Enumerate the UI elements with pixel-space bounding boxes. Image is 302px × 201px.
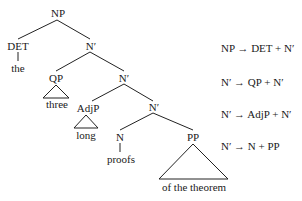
rule-1: NP → DET + N′ — [221, 42, 294, 54]
node-qp: QP — [49, 72, 63, 84]
node-nbar-3: N′ — [149, 101, 159, 113]
node-det: DET — [7, 40, 28, 52]
rule-3: N′ → AdjP + N′ — [221, 108, 292, 120]
rule-2: N′ → QP + N′ — [221, 76, 284, 88]
leaf-long: long — [76, 129, 96, 141]
leaf-three: three — [46, 98, 68, 110]
rule-4: N′ → N + PP — [221, 140, 280, 152]
node-adjp: AdjP — [77, 102, 100, 114]
leaf-the: the — [11, 62, 24, 74]
leaf-proofs: proofs — [107, 153, 135, 165]
node-np: NP — [51, 7, 65, 19]
node-nbar-1: N′ — [86, 40, 96, 52]
leaf-of-the-theorem: of the theorem — [162, 181, 226, 193]
node-nbar-2: N′ — [119, 72, 129, 84]
node-n: N — [116, 131, 124, 143]
node-pp: PP — [187, 131, 199, 143]
